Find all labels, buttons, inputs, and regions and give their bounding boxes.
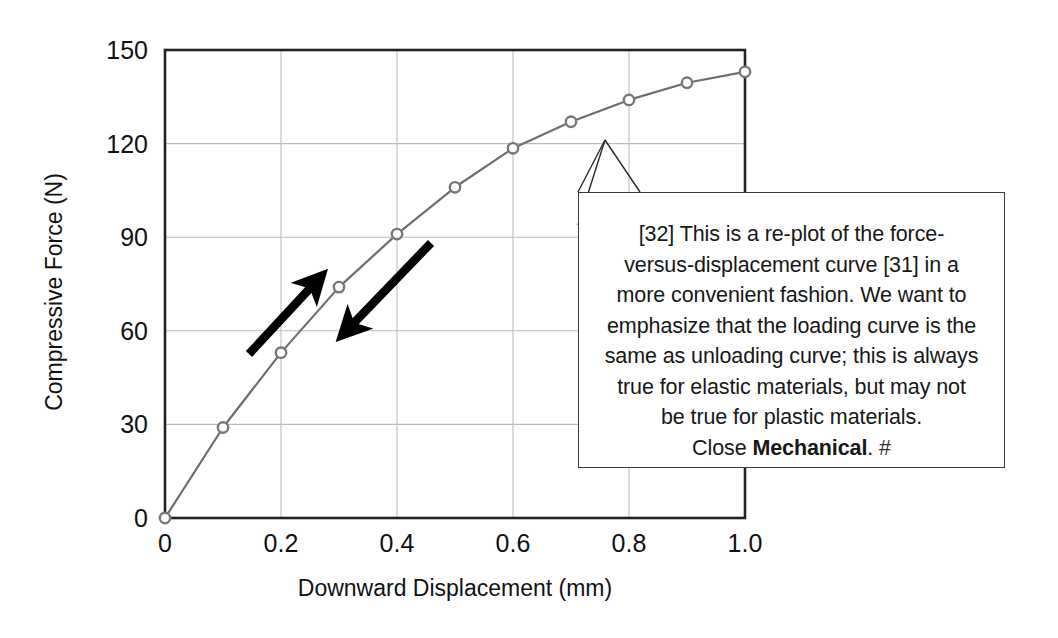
- callout-line: true for elastic materials, but may not: [603, 372, 980, 403]
- y-tick-label: 120: [106, 130, 148, 158]
- callout-hash-glyph: #: [879, 436, 891, 460]
- annotation-callout-box: [32] This is a re-plot of the force-vers…: [578, 192, 1005, 468]
- callout-line: versus-displacement curve [31] in a: [603, 250, 980, 281]
- y-axis-title: Compressive Force (N): [41, 173, 67, 411]
- y-axis-tick-labels: 0306090120150: [106, 36, 148, 532]
- figure-stage: 0306090120150 00.20.40.60.81.0 Downward …: [0, 0, 1058, 638]
- x-axis-title: Downward Displacement (mm): [298, 575, 612, 601]
- x-tick-label: 0: [158, 529, 172, 557]
- data-point-marker: [392, 229, 402, 239]
- x-tick-label: 0.6: [496, 529, 531, 557]
- data-point-marker: [566, 117, 576, 127]
- callout-bold-term: Mechanical: [752, 436, 867, 460]
- unloading-arrow-icon: [351, 243, 431, 326]
- x-axis-tick-labels: 00.20.40.60.81.0: [158, 529, 762, 557]
- data-point-marker: [682, 78, 692, 88]
- leader-line-right: [605, 140, 640, 192]
- callout-last-line: Close Mechanical. #: [603, 433, 980, 464]
- data-point-marker: [160, 513, 170, 523]
- y-tick-label: 150: [106, 36, 148, 64]
- data-point-marker: [218, 422, 228, 432]
- data-point-marker: [276, 347, 286, 357]
- x-tick-label: 0.4: [380, 529, 415, 557]
- y-tick-label: 90: [120, 223, 148, 251]
- callout-line: be true for plastic materials.: [603, 402, 980, 433]
- data-point-marker: [508, 143, 518, 153]
- data-point-marker: [624, 95, 634, 105]
- callout-line: [32] This is a re-plot of the force-: [603, 219, 980, 250]
- x-tick-label: 0.8: [612, 529, 647, 557]
- data-point-marker: [334, 282, 344, 292]
- data-point-marker: [740, 67, 750, 77]
- callout-line: same as unloading curve; this is always: [603, 341, 980, 372]
- y-tick-label: 0: [134, 504, 148, 532]
- annotation-callout-text: [32] This is a re-plot of the force-vers…: [579, 193, 1004, 467]
- callout-line: emphasize that the loading curve is the: [603, 311, 980, 342]
- x-tick-label: 0.2: [264, 529, 299, 557]
- y-tick-label: 30: [120, 410, 148, 438]
- x-tick-label: 1.0: [728, 529, 763, 557]
- data-point-marker: [450, 182, 460, 192]
- callout-line: more convenient fashion. We want to: [603, 280, 980, 311]
- y-tick-label: 60: [120, 317, 148, 345]
